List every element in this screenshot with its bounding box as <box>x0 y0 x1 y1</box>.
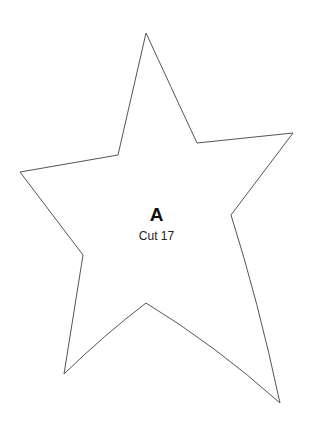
piece-letter: A <box>0 204 309 226</box>
pattern-canvas: A Cut 17 <box>0 0 309 429</box>
cut-count-label: Cut 17 <box>0 229 309 243</box>
